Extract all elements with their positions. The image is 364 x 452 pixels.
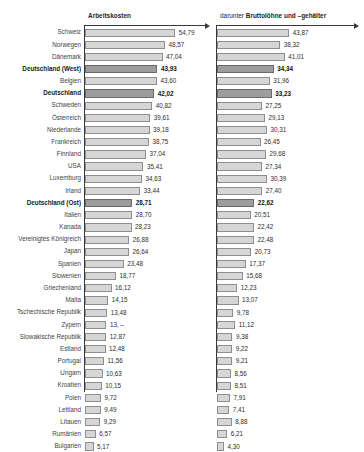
right-bar-value: 27,34 <box>266 163 282 171</box>
left-bar <box>85 418 100 426</box>
right-bar-cell: 30,39 <box>217 173 311 185</box>
right-bar <box>217 333 232 341</box>
right-bar-value: 9,21 <box>236 357 248 365</box>
left-bar-value: 40,82 <box>156 102 172 110</box>
left-bar <box>85 357 104 365</box>
right-bar-value: 4,30 <box>228 443 240 451</box>
chart-row: Griechenland16,1212,23 <box>0 283 364 295</box>
right-bar <box>217 430 227 438</box>
right-bar <box>217 406 229 414</box>
chart-row: Deutschland42,0233,23 <box>0 88 364 100</box>
left-bar <box>85 199 132 207</box>
country-label: Bulgarien <box>54 442 81 450</box>
chart-row: Schweden40,8227,25 <box>0 100 364 112</box>
country-label: Portugal <box>58 357 81 365</box>
left-bar <box>85 333 106 341</box>
chart-row: Estland12,489,22 <box>0 343 364 355</box>
chart-row: Japan26,6420,73 <box>0 246 364 258</box>
left-bar-cell: 37,04 <box>85 149 179 161</box>
right-bar-value: 22,48 <box>258 236 274 244</box>
right-bar <box>217 211 251 219</box>
right-bar-value: 26,45 <box>264 138 280 146</box>
country-label: Lettland <box>59 406 81 414</box>
left-bar-value: 37,04 <box>150 150 166 158</box>
right-bar <box>217 114 265 122</box>
left-bar <box>85 406 101 414</box>
chart-row: Deutschland (Ost)28,7122,62 <box>0 197 364 209</box>
country-label: Kanada <box>59 223 81 231</box>
country-label: Ungarn <box>60 369 81 377</box>
chart-row: Lettland9,497,41 <box>0 404 364 416</box>
right-bar-cell: 29,13 <box>217 112 311 124</box>
left-bar-cell: 12,48 <box>85 343 179 355</box>
country-label: Irland <box>65 187 81 195</box>
left-bar <box>85 260 124 268</box>
right-bar-value: 8,56 <box>235 370 247 378</box>
right-bar-cell: 27,40 <box>217 185 311 197</box>
right-bar-value: 38,32 <box>284 41 300 49</box>
left-bar <box>85 296 108 304</box>
chart-row: Luxemburg34,6330,39 <box>0 173 364 185</box>
country-label: Litauen <box>60 418 81 426</box>
left-bar-cell: 34,63 <box>85 173 179 185</box>
left-bar-value: 10,15 <box>105 382 121 390</box>
right-bar-value: 20,51 <box>254 211 270 219</box>
country-label: Spanien <box>58 260 81 268</box>
left-bar-cell: 42,02 <box>85 88 179 100</box>
left-bar <box>85 248 129 256</box>
chart-row: Irland33,4427,40 <box>0 185 364 197</box>
left-bar-value: 33,44 <box>144 187 160 195</box>
right-bar-cell: 8,88 <box>217 417 311 429</box>
country-label: Deutschland <box>43 89 81 97</box>
left-bar-cell: 9,72 <box>85 392 179 404</box>
left-bar-cell: 18,77 <box>85 270 179 282</box>
country-label: Schweden <box>52 101 81 109</box>
right-bar-value: 7,91 <box>234 394 246 402</box>
left-bar <box>85 321 106 329</box>
chart-row: Tschechische Republik13,489,78 <box>0 307 364 319</box>
left-bar <box>85 345 106 353</box>
left-bar-value: 9,72 <box>105 394 117 402</box>
left-bar <box>85 309 107 317</box>
country-label: Tschechische Republik <box>17 308 81 316</box>
right-bar <box>217 89 272 97</box>
right-bar-value: 11,12 <box>239 321 254 329</box>
country-label: Griechenland <box>44 284 81 292</box>
left-bar-value: 34,63 <box>146 175 162 183</box>
left-bar-cell: 28,71 <box>85 197 179 209</box>
left-bar-cell: 40,82 <box>85 100 179 112</box>
right-bar-cell: 26,45 <box>217 137 311 149</box>
country-label: Polen <box>65 394 81 402</box>
left-bar-cell: 28,70 <box>85 210 179 222</box>
right-bar <box>217 187 262 195</box>
left-bar-value: 54,79 <box>179 29 195 37</box>
chart-row: Spanien23,4817,37 <box>0 258 364 270</box>
left-bar-cell: 39,61 <box>85 112 179 124</box>
right-bar-cell: 9,78 <box>217 307 311 319</box>
country-label: Japan <box>64 247 81 255</box>
chart-row: Frankreich38,7526,45 <box>0 137 364 149</box>
country-label: USA <box>68 162 81 170</box>
left-bar-cell: 16,12 <box>85 283 179 295</box>
right-bar-value: 41,01 <box>288 53 304 61</box>
chart-row: Deutschland (West)43,9334,34 <box>0 64 364 76</box>
right-bar-cell: 27,34 <box>217 161 311 173</box>
left-bar <box>85 236 129 244</box>
left-bar-cell: 38,75 <box>85 137 179 149</box>
left-bar <box>85 272 116 280</box>
right-bar-cell: 30,31 <box>217 124 311 136</box>
chart-row: Zypern13, –11,12 <box>0 319 364 331</box>
right-bar-value: 20,73 <box>255 248 271 256</box>
left-bar-cell: 12,87 <box>85 331 179 343</box>
right-bar-cell: 8,51 <box>217 380 311 392</box>
left-bar-value: 10,63 <box>106 370 122 378</box>
right-bar <box>217 382 231 390</box>
chart-row: Slowakische Republik12,879,38 <box>0 331 364 343</box>
right-bar <box>217 284 237 292</box>
left-bar-value: 11,56 <box>108 357 123 365</box>
chart-row: USA35,4127,34 <box>0 161 364 173</box>
left-bar-value: 13, – <box>110 321 124 329</box>
right-bar <box>217 236 254 244</box>
left-bar <box>85 162 143 170</box>
chart-row: Vereinigtes Königreich26,8822,48 <box>0 234 364 246</box>
